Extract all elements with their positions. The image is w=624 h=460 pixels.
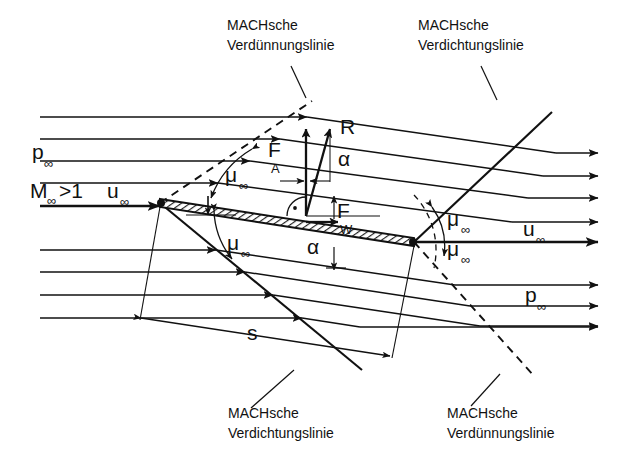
- downstream-pressure-base: p: [525, 283, 537, 306]
- drag-force-sub: W: [340, 222, 353, 237]
- mach-angle-upper-right-sub: ∞: [461, 222, 470, 237]
- leading-edge-marker: [157, 199, 165, 207]
- label-alpha-lower: α: [307, 235, 319, 258]
- downstream-pressure-sub: ∞: [537, 299, 546, 314]
- mach-angle-lower-right-sub: ∞: [461, 252, 470, 267]
- mach-angle-upper-left-base: μ: [225, 163, 237, 186]
- drag-force-base: F: [337, 199, 350, 222]
- upstream-pressure-sub: ∞: [44, 156, 53, 171]
- label-top-right-line2: Verdichtungslinie: [418, 37, 524, 53]
- label-bottom-left-line1: MACHsche: [228, 405, 299, 421]
- label-chord-dimension: s: [247, 321, 258, 344]
- label-top-left-line2: Verdünnungslinie: [227, 37, 335, 53]
- upstream-velocity-base: u: [107, 179, 119, 202]
- upstream-mach-rel: >1: [59, 179, 83, 202]
- mach-angle-upper-right-base: μ: [447, 207, 459, 230]
- label-bottom-right-line1: MACHsche: [447, 405, 518, 421]
- mach-angle-lower-left-base: μ: [227, 231, 239, 254]
- label-bottom-left-line2: Verdichtungslinie: [228, 425, 334, 441]
- supersonic-airfoil-diagram: MACHsche Verdünnungslinie MACHsche Verdi…: [0, 0, 624, 460]
- upstream-mach-base: M: [30, 179, 48, 202]
- trailing-edge-marker: [409, 238, 417, 246]
- lift-force-base: F: [268, 138, 281, 161]
- mach-angle-upper-left-sub: ∞: [239, 178, 248, 193]
- upstream-velocity-sub: ∞: [120, 194, 129, 209]
- label-bottom-right-line2: Verdünnungslinie: [447, 425, 555, 441]
- label-top-left-line1: MACHsche: [227, 17, 298, 33]
- mach-angle-lower-left-sub: ∞: [241, 246, 250, 261]
- lift-force-sub: A: [271, 161, 280, 176]
- upstream-pressure-base: p: [32, 140, 44, 163]
- label-alpha-upper: α: [338, 147, 350, 170]
- downstream-velocity-base: u: [523, 217, 535, 240]
- mach-angle-lower-right-base: μ: [447, 237, 459, 260]
- upstream-mach-sub: ∞: [47, 193, 56, 208]
- right-angle-dot: [293, 206, 297, 210]
- label-top-right-line1: MACHsche: [418, 17, 489, 33]
- downstream-velocity-sub: ∞: [536, 232, 545, 247]
- label-resultant-force: R: [340, 115, 355, 138]
